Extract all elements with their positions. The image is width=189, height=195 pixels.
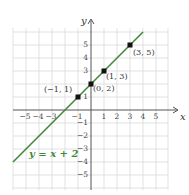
svg-text:2: 2 [115, 112, 120, 121]
y-axis-label: y [80, 15, 87, 26]
x-tick-labels: −5 −4 −3 −1 1 2 3 4 5 [19, 112, 158, 121]
svg-text:3: 3 [128, 112, 133, 121]
label-0-2: (0, 2) [93, 84, 115, 93]
label-1-3: (1, 3) [106, 72, 128, 81]
chart: x y −5 −4 −3 −1 1 2 3 4 5 5 4 3 1 −1 −2 … [0, 0, 189, 195]
svg-text:5: 5 [83, 40, 88, 49]
svg-text:−5: −5 [19, 112, 30, 121]
svg-text:−4: −4 [32, 112, 43, 121]
svg-text:3: 3 [83, 66, 88, 75]
label-neg1-1: (−1, 1) [44, 85, 72, 94]
svg-text:−5: −5 [77, 170, 88, 179]
svg-text:−4: −4 [77, 157, 88, 166]
svg-text:−3: −3 [77, 144, 88, 153]
point-3-5 [128, 43, 133, 48]
point-neg1-1 [76, 95, 81, 100]
label-3-5: (3, 5) [133, 48, 155, 57]
svg-text:−2: −2 [77, 131, 88, 140]
svg-text:1: 1 [102, 112, 107, 121]
equation-label: y = x + 2 [28, 148, 78, 159]
svg-text:4: 4 [83, 53, 88, 62]
svg-text:4: 4 [141, 112, 146, 121]
x-axis-label: x [180, 111, 186, 122]
svg-text:−1: −1 [77, 118, 88, 127]
svg-text:1: 1 [83, 92, 88, 101]
svg-text:5: 5 [154, 112, 159, 121]
